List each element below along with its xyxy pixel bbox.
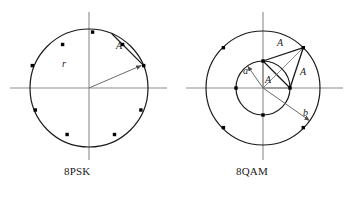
qam-side-label-inner: A	[264, 74, 272, 85]
psk-point	[142, 64, 145, 67]
psk-radius-label: r	[62, 58, 66, 69]
qam-side-label-right: A	[299, 66, 307, 77]
qam-outer-radius-label: b	[303, 107, 308, 118]
qam-point-inner	[234, 86, 237, 89]
psk-point	[34, 108, 37, 111]
psk-point	[91, 30, 94, 33]
qam-point-outer	[302, 46, 305, 49]
qam-inner-radius-label: a	[243, 65, 248, 76]
qam-point-inner	[261, 59, 264, 62]
psk-caption: 8PSK	[64, 165, 90, 177]
psk-point	[113, 133, 116, 136]
constellation-diagram-figure: r A a	[0, 0, 354, 198]
qam-point-outer	[222, 126, 225, 129]
qam-caption: 8QAM	[236, 165, 268, 177]
psk-point	[139, 108, 142, 111]
psk-point	[31, 64, 34, 67]
qam-point-inner	[261, 113, 264, 116]
qam-point-outer	[302, 126, 305, 129]
psk-chord-label: A	[115, 40, 123, 51]
psk-point	[61, 43, 64, 46]
figure-background	[0, 0, 354, 198]
psk-point	[65, 133, 68, 136]
qam-side-label-top: A	[276, 37, 284, 48]
qam-point-inner	[288, 86, 291, 89]
qam-point-outer	[222, 46, 225, 49]
